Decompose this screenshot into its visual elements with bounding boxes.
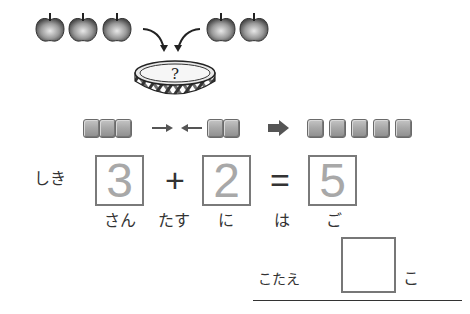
reading-result: ご bbox=[326, 213, 342, 229]
result-box: 5 bbox=[308, 155, 357, 206]
apple-icon bbox=[206, 11, 236, 43]
answer-unit: こ bbox=[403, 271, 419, 287]
basket-icon: ? bbox=[132, 55, 218, 101]
answer-underline bbox=[253, 300, 462, 301]
arrow-left-icon bbox=[180, 122, 202, 134]
equals-sign: = bbox=[270, 163, 290, 197]
plus-sign: + bbox=[165, 163, 185, 197]
equation-label: しき bbox=[34, 171, 66, 187]
block bbox=[99, 119, 116, 138]
block bbox=[395, 119, 412, 138]
curved-arrows-icon bbox=[140, 25, 205, 55]
block bbox=[351, 119, 368, 138]
answer-label: こたえ bbox=[258, 272, 300, 286]
block bbox=[329, 119, 346, 138]
reading-plus: たす bbox=[158, 213, 190, 229]
block bbox=[307, 119, 324, 138]
operand1-box: 3 bbox=[95, 155, 144, 206]
apple-icon bbox=[35, 11, 65, 43]
reading-operand1: さん bbox=[104, 213, 136, 229]
block bbox=[373, 119, 390, 138]
block bbox=[115, 119, 132, 138]
answer-input-box[interactable] bbox=[341, 237, 396, 293]
apple-icon bbox=[68, 11, 98, 43]
arrow-right-icon bbox=[152, 122, 174, 134]
block bbox=[83, 119, 100, 138]
block bbox=[223, 119, 240, 138]
block bbox=[207, 119, 224, 138]
reading-operand2: に bbox=[218, 213, 234, 229]
basket-question-mark: ? bbox=[171, 65, 179, 83]
operand2-box: 2 bbox=[202, 155, 251, 206]
reading-equals: は bbox=[274, 213, 290, 229]
result-arrow-icon bbox=[268, 120, 290, 136]
apple-icon bbox=[239, 11, 269, 43]
apple-icon bbox=[102, 11, 132, 43]
